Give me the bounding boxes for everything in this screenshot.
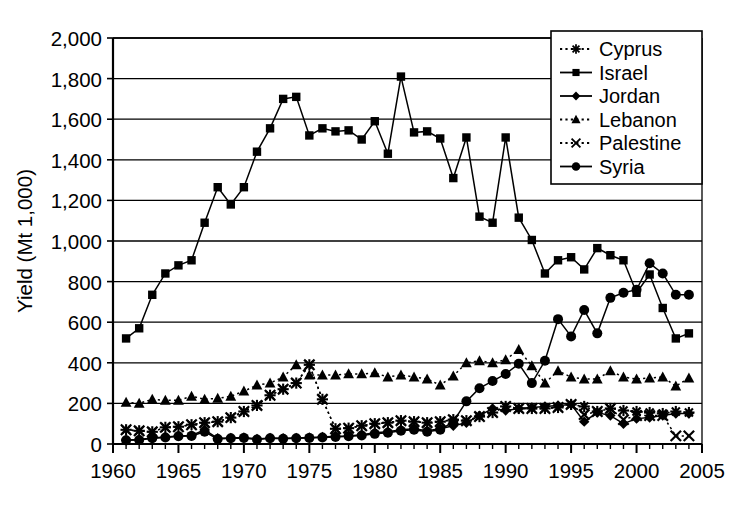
datapoint-syria-2003 — [671, 290, 681, 300]
datapoint-israel-1978 — [344, 126, 352, 134]
datapoint-israel-1967 — [200, 219, 208, 227]
y-axis-title: Yield (Mt 1,000) — [13, 169, 36, 313]
datapoint-israel-2004 — [685, 329, 693, 337]
datapoint-israel-1989 — [488, 219, 496, 227]
datapoint-syria-1997 — [592, 328, 602, 338]
datapoint-syria-1971 — [252, 435, 262, 445]
datapoint-israel-1976 — [318, 124, 326, 132]
datapoint-syria-1980 — [370, 429, 380, 439]
datapoint-israel-1968 — [214, 183, 222, 191]
datapoint-lebanon-1979 — [356, 368, 367, 378]
series-line-lebanon — [126, 350, 689, 404]
datapoint-syria-1985 — [435, 425, 445, 435]
datapoint-israel-1982 — [397, 72, 405, 80]
datapoint-syria-1964 — [160, 433, 170, 443]
datapoint-israel-1964 — [161, 269, 169, 277]
datapoint-israel-1973 — [279, 95, 287, 103]
datapoint-syria-1988 — [474, 383, 484, 393]
datapoint-syria-1963 — [147, 433, 157, 443]
datapoint-israel-1987 — [462, 133, 470, 141]
xtick-label-1985: 1985 — [417, 459, 463, 482]
datapoint-israel-1999 — [619, 256, 627, 264]
datapoint-israel-1993 — [541, 269, 549, 277]
datapoint-lebanon-1969 — [225, 391, 236, 401]
datapoint-israel-1996 — [580, 265, 588, 273]
datapoint-israel-1971 — [253, 147, 261, 155]
datapoint-lebanon-2002 — [657, 371, 668, 381]
datapoint-lebanon-1980 — [369, 367, 380, 377]
xtick-label-1995: 1995 — [548, 459, 594, 482]
ytick-label-600: 600 — [68, 311, 102, 334]
datapoint-israel-1984 — [423, 127, 431, 135]
legend-marker-cyprus — [571, 44, 581, 54]
datapoint-syria-1991 — [514, 359, 524, 369]
ytick-label-1000: 1,000 — [51, 230, 102, 253]
datapoint-israel-1974 — [292, 93, 300, 101]
datapoint-israel-1998 — [606, 251, 614, 259]
datapoint-lebanon-1995 — [566, 371, 577, 381]
datapoint-israel-1966 — [187, 256, 195, 264]
xtick-label-2000: 2000 — [614, 459, 660, 482]
legend-label-israel: Israel — [599, 62, 648, 84]
datapoint-lebanon-1991 — [513, 344, 524, 354]
series-lebanon — [121, 344, 695, 408]
ytick-label-400: 400 — [68, 352, 102, 375]
xtick-label-1975: 1975 — [287, 459, 333, 482]
datapoint-syria-1995 — [566, 331, 576, 341]
datapoint-syria-1983 — [409, 425, 419, 435]
datapoint-lebanon-1988 — [474, 355, 485, 365]
datapoint-syria-1962 — [134, 435, 144, 445]
ytick-label-800: 800 — [68, 271, 102, 294]
datapoint-syria-1981 — [383, 428, 393, 438]
datapoint-lebanon-1971 — [252, 380, 263, 390]
datapoint-syria-1976 — [317, 433, 327, 443]
datapoint-lebanon-1993 — [540, 378, 551, 388]
datapoint-syria-1986 — [448, 417, 458, 427]
xtick-label-2005: 2005 — [679, 459, 725, 482]
datapoint-syria-1979 — [357, 430, 367, 440]
datapoint-israel-1980 — [371, 117, 379, 125]
ytick-label-1600: 1,600 — [51, 108, 102, 131]
datapoint-israel-1975 — [305, 131, 313, 139]
datapoint-israel-1990 — [501, 133, 509, 141]
xtick-label-1960: 1960 — [90, 459, 136, 482]
datapoint-syria-1961 — [121, 435, 131, 445]
datapoint-israel-1969 — [227, 200, 235, 208]
datapoint-syria-1994 — [553, 314, 563, 324]
datapoint-palestine-2003 — [671, 431, 681, 441]
legend-label-palestine: Palestine — [599, 132, 681, 154]
datapoint-israel-1997 — [593, 244, 601, 252]
datapoint-israel-1965 — [174, 261, 182, 269]
datapoint-israel-1994 — [554, 256, 562, 264]
datapoint-syria-2004 — [684, 290, 694, 300]
datapoint-lebanon-2003 — [670, 381, 681, 391]
datapoint-jordan-1994 — [553, 400, 563, 410]
datapoint-syria-1984 — [422, 427, 432, 437]
datapoint-syria-1996 — [579, 305, 589, 315]
xtick-label-1965: 1965 — [156, 459, 202, 482]
datapoint-syria-1999 — [618, 288, 628, 298]
datapoint-lebanon-1992 — [526, 360, 537, 370]
ytick-label-1200: 1,200 — [51, 189, 102, 212]
ytick-label-1800: 1,800 — [51, 68, 102, 91]
legend-label-jordan: Jordan — [599, 85, 660, 107]
datapoint-palestine-2004 — [684, 431, 694, 441]
legend: CyprusIsraelJordanLebanonPalestineSyria — [551, 31, 702, 184]
legend-label-syria: Syria — [599, 156, 645, 178]
datapoint-israel-1986 — [449, 174, 457, 182]
datapoint-syria-1993 — [540, 356, 550, 366]
datapoint-lebanon-1998 — [605, 365, 616, 375]
datapoint-lebanon-1978 — [343, 368, 354, 378]
datapoint-lebanon-1968 — [212, 393, 223, 403]
datapoint-lebanon-1994 — [553, 365, 564, 375]
datapoint-lebanon-1999 — [618, 371, 629, 381]
datapoint-jordan-2001 — [644, 412, 654, 422]
datapoint-israel-1961 — [122, 334, 130, 342]
datapoint-israel-1995 — [567, 253, 575, 261]
datapoint-israel-1963 — [148, 291, 156, 299]
datapoint-lebanon-1970 — [238, 386, 249, 396]
datapoint-syria-1992 — [527, 378, 537, 388]
datapoint-israel-1991 — [515, 213, 523, 221]
datapoint-lebanon-1974 — [291, 359, 302, 369]
datapoint-israel-1981 — [384, 150, 392, 158]
